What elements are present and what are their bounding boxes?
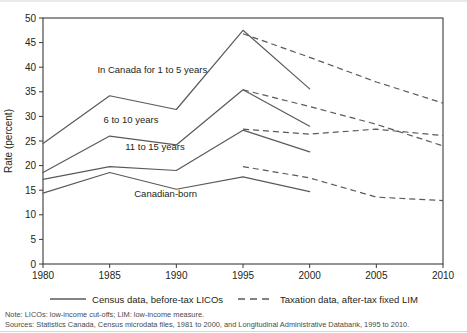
y-tick-label: 10 <box>25 209 37 220</box>
y-tick-label: 15 <box>25 185 37 196</box>
bottom-divider <box>0 331 467 332</box>
x-tick-label: 1985 <box>99 270 122 281</box>
footnote-sources: Sources: Statistics Canada, Census micro… <box>5 320 465 330</box>
plot-frame <box>43 18 443 264</box>
y-tick-label: 25 <box>25 136 37 147</box>
x-tick-label: 2005 <box>365 270 388 281</box>
y-axis-title: Rate (percent) <box>3 109 14 173</box>
legend-item-taxation: Taxation data, after-tax fixed LIM <box>237 294 418 305</box>
legend-swatch-dashed-icon <box>237 294 275 304</box>
line-chart: 05101520253035404550 1980198519901995200… <box>0 0 467 290</box>
y-tick-label: 0 <box>30 259 36 270</box>
y-axis-ticks: 05101520253035404550 <box>25 13 43 270</box>
y-tick-label: 40 <box>25 62 37 73</box>
series-annotation-label: 11 to 15 years <box>125 141 185 152</box>
x-axis-ticks: 1980198519901995200020052010 <box>32 264 455 281</box>
legend-label-census: Census data, before-tax LICOs <box>92 294 223 305</box>
legend-label-taxation: Taxation data, after-tax fixed LIM <box>280 294 418 305</box>
footnote-note: Note: LICOs: low-income cut-offs; LIM: l… <box>5 310 465 320</box>
y-tick-label: 50 <box>25 13 37 24</box>
x-tick-label: 2000 <box>299 270 322 281</box>
x-tick-label: 1995 <box>232 270 255 281</box>
y-tick-label: 30 <box>25 111 37 122</box>
series-annotation-label: 6 to 10 years <box>104 114 159 125</box>
y-tick-label: 5 <box>30 234 36 245</box>
y-tick-label: 45 <box>25 37 37 48</box>
series-annotation-label: In Canada for 1 to 5 years <box>97 64 207 75</box>
x-tick-label: 1980 <box>32 270 55 281</box>
legend-item-census: Census data, before-tax LICOs <box>49 294 223 305</box>
chart-legend: Census data, before-tax LICOs Taxation d… <box>0 291 467 307</box>
legend-swatch-solid-icon <box>49 294 87 304</box>
footnotes: Note: LICOs: low-income cut-offs; LIM: l… <box>5 310 465 330</box>
y-tick-label: 20 <box>25 160 37 171</box>
x-tick-label: 1990 <box>165 270 188 281</box>
series-annotation-label: Canadian-born <box>134 188 197 199</box>
x-tick-label: 2010 <box>432 270 455 281</box>
figure-container: 05101520253035404550 1980198519901995200… <box>0 0 467 333</box>
y-tick-label: 35 <box>25 86 37 97</box>
